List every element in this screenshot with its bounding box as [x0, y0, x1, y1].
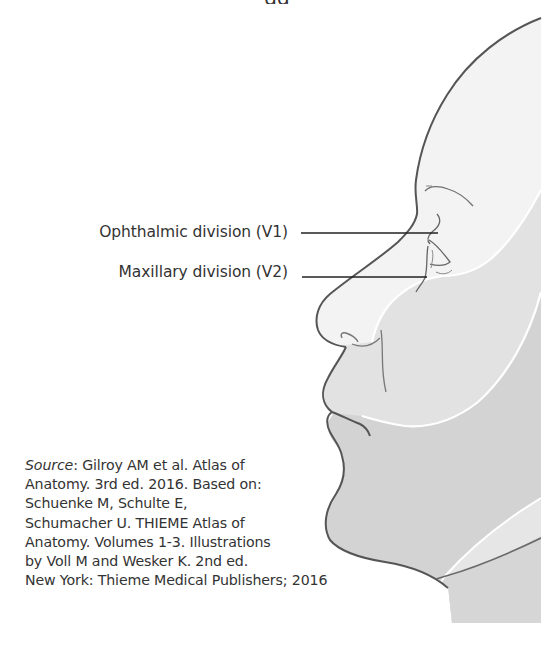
- label-v1-text: Ophthalmic division (V1): [99, 223, 288, 241]
- source-citation: Source: Gilroy AM et al. Atlas of Anatom…: [25, 456, 327, 590]
- label-v2-text: Maxillary division (V2): [119, 263, 288, 281]
- source-line-2: Anatomy. 3rd ed. 2016. Based on:: [25, 475, 327, 494]
- label-ophthalmic-division: Ophthalmic division (V1): [99, 223, 288, 241]
- source-line-3: Schuenke M, Schulte E,: [25, 494, 327, 513]
- source-line-1: Source: Gilroy AM et al. Atlas of: [25, 456, 327, 475]
- source-line-7: New York: Thieme Medical Publishers; 201…: [25, 571, 327, 590]
- source-prefix: Source: [25, 457, 73, 473]
- source-line-5: Anatomy. Volumes 1-3. Illustrations: [25, 533, 327, 552]
- label-maxillary-division: Maxillary division (V2): [119, 263, 288, 281]
- source-line-6: by Voll M and Wesker K. 2nd ed.: [25, 552, 327, 571]
- source-line-1-text: : Gilroy AM et al. Atlas of: [73, 457, 244, 473]
- source-line-4: Schumacher U. THIEME Atlas of: [25, 514, 327, 533]
